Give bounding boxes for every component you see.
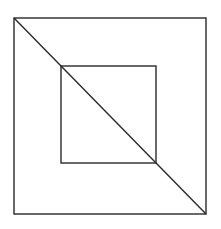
diagram-canvas xyxy=(0,0,221,229)
diagonal-line xyxy=(14,18,206,214)
